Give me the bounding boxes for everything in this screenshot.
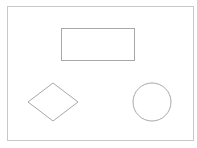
rectangle-shape[interactable] (62, 29, 135, 61)
diamond-shape[interactable] (28, 83, 78, 121)
circle-shape[interactable] (133, 83, 171, 121)
diagram-frame (8, 7, 194, 141)
diagram-canvas (0, 0, 197, 148)
